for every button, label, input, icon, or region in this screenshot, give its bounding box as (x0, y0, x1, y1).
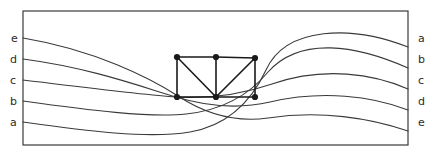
graph-figure: e d c b a a b c d e (0, 0, 432, 157)
right-label-d: d (418, 95, 425, 108)
edge-diagonal-left (177, 57, 216, 97)
right-label-b: b (418, 53, 425, 66)
left-label-group: e d c b a (10, 32, 18, 129)
right-label-a: a (418, 32, 425, 45)
right-label-group: a b c d e (418, 32, 425, 129)
left-label-d: d (10, 53, 17, 66)
left-label-e: e (11, 32, 18, 45)
figure-container: e d c b a a b c d e (0, 0, 432, 157)
left-label-b: b (10, 95, 17, 108)
node-top-mid[interactable] (213, 54, 219, 60)
graph-edge-group (177, 57, 255, 97)
right-label-e: e (418, 116, 425, 129)
node-top-left[interactable] (174, 54, 180, 60)
node-top-right[interactable] (252, 55, 258, 61)
node-bot-right[interactable] (252, 94, 258, 100)
left-label-a: a (10, 116, 17, 129)
node-bot-left[interactable] (174, 94, 180, 100)
edge-top-mid-top-right (216, 57, 255, 58)
right-label-c: c (418, 74, 424, 87)
left-label-c: c (10, 74, 16, 87)
node-bot-mid[interactable] (213, 94, 219, 100)
